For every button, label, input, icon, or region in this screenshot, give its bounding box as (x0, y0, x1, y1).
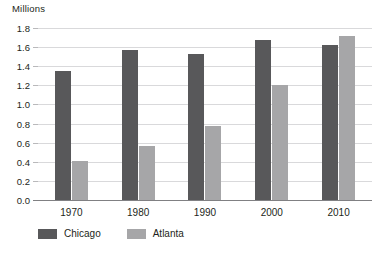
bar-atlanta-1990 (205, 126, 221, 200)
y-axis-tick-label: 1.8 (17, 23, 30, 34)
y-axis-tick-label: 1.0 (17, 99, 30, 110)
y-axis-tick-label: 1.4 (17, 61, 30, 72)
y-axis-tick-label: 0.6 (17, 137, 30, 148)
y-axis-tick (33, 200, 38, 201)
bar-chart: Millions 1.81.61.41.21.00.80.60.40.20.0 … (0, 0, 388, 255)
x-axis-tick-label: 2000 (238, 207, 305, 218)
y-axis-tick-label: 1.2 (17, 80, 30, 91)
bar-atlanta-2010 (339, 36, 355, 200)
legend-item-chicago: Chicago (38, 228, 101, 239)
x-axis-tick-label: 1980 (105, 207, 172, 218)
y-axis-tick-label: 1.6 (17, 42, 30, 53)
bar-chicago-1980 (122, 50, 138, 200)
legend-swatch-icon (127, 229, 146, 239)
x-axis-tick-label: 1970 (38, 207, 105, 218)
bar-group: 2010 (305, 28, 372, 200)
bar-atlanta-2000 (272, 85, 288, 200)
plot-area: 1.81.61.41.21.00.80.60.40.20.0 197019801… (38, 28, 372, 200)
bar-chicago-2010 (322, 45, 338, 200)
y-axis-tick-label: 0.4 (17, 156, 30, 167)
legend-item-atlanta: Atlanta (127, 228, 184, 239)
legend-swatch-icon (38, 229, 57, 239)
bar-chicago-1990 (188, 54, 204, 200)
bar-atlanta-1970 (72, 161, 88, 200)
y-axis-tick-label: 0.2 (17, 175, 30, 186)
y-axis-tick-label: 0.8 (17, 118, 30, 129)
legend-label: Chicago (64, 228, 101, 239)
y-axis-title: Millions (12, 3, 45, 14)
bar-group: 1970 (38, 28, 105, 200)
bar-chicago-1970 (55, 71, 71, 200)
legend-label: Atlanta (153, 228, 184, 239)
bar-group: 2000 (238, 28, 305, 200)
chart-legend: ChicagoAtlanta (38, 228, 184, 239)
x-axis-tick-label: 2010 (305, 207, 372, 218)
y-axis-tick-label: 0.0 (17, 195, 30, 206)
x-axis-line (38, 200, 372, 201)
bar-chicago-2000 (255, 40, 271, 200)
bar-group: 1990 (172, 28, 239, 200)
bar-atlanta-1980 (139, 146, 155, 200)
bar-group: 1980 (105, 28, 172, 200)
x-axis-tick-label: 1990 (172, 207, 239, 218)
